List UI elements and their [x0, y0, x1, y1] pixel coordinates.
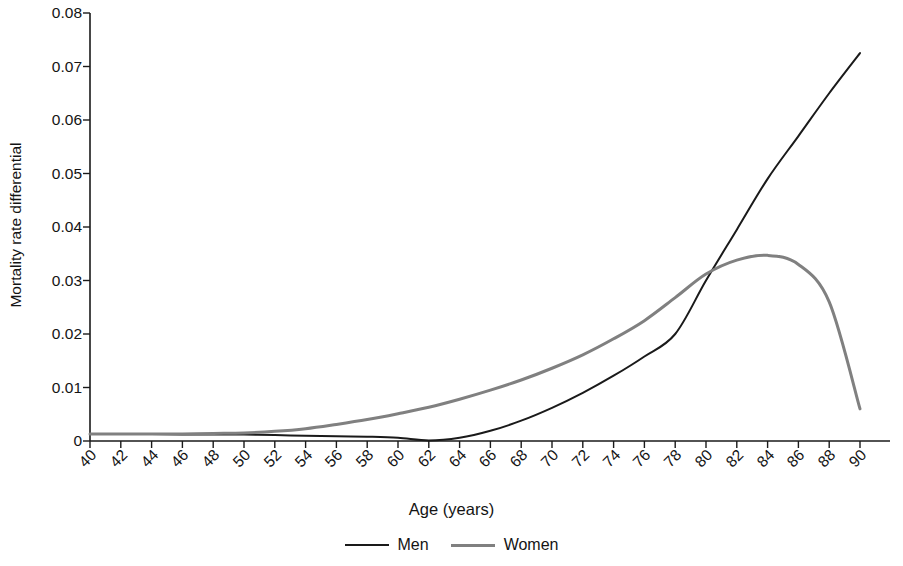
- series-line-men: [90, 53, 860, 440]
- data-series: [90, 53, 860, 440]
- legend-item-men[interactable]: Men: [345, 536, 429, 554]
- legend-line-swatch: [451, 544, 495, 547]
- legend-line-swatch: [345, 544, 389, 546]
- legend-label: Men: [398, 536, 429, 554]
- chart-figure: Mortality rate differential 00.010.020.0…: [0, 0, 903, 566]
- axes-lines: [90, 13, 890, 441]
- x-axis-title: Age (years): [0, 500, 903, 519]
- axis-ticks: [83, 13, 860, 448]
- legend-label: Women: [504, 536, 559, 554]
- legend-item-women[interactable]: Women: [451, 536, 559, 554]
- series-line-women: [90, 255, 860, 434]
- plot-area: [0, 0, 903, 566]
- chart-legend: MenWomen: [0, 536, 903, 554]
